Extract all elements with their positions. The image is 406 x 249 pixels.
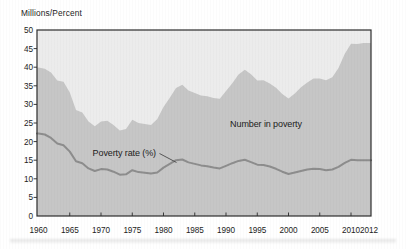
x-tick-label: 1990 — [217, 226, 235, 235]
y-tick-label: 20 — [24, 138, 33, 147]
y-tick-label: 40 — [24, 63, 33, 72]
y-tick-label: 45 — [24, 45, 33, 54]
x-tick-label: 2012 — [360, 226, 378, 235]
x-tick-label: 1985 — [186, 226, 204, 235]
x-tick-label: 1970 — [92, 226, 110, 235]
poverty-rate-label: Poverty rate (%) — [93, 148, 157, 158]
y-tick-label: 25 — [24, 119, 33, 128]
number-in-poverty-label: Number in poverty — [230, 119, 302, 129]
x-tick-label: 2005 — [311, 226, 329, 235]
x-tick-label: 2000 — [280, 226, 298, 235]
x-tick-label: 1965 — [61, 226, 79, 235]
y-tick-label: 15 — [24, 156, 33, 165]
y-tick-label: 5 — [29, 193, 34, 202]
x-tick-label: 1975 — [123, 226, 141, 235]
y-tick-label: 35 — [24, 82, 33, 91]
x-tick-label: 1995 — [248, 226, 266, 235]
y-tick-label: 30 — [24, 100, 33, 109]
y-tick-label: 50 — [24, 26, 33, 35]
poverty-chart-canvas: 0510152025303540455019601965197019751980… — [0, 0, 406, 249]
y-tick-label: 10 — [24, 175, 33, 184]
x-tick-label: 1980 — [155, 226, 173, 235]
x-tick-label: 2010 — [342, 226, 360, 235]
poverty-figure: Millions/Percent 05101520253035404550196… — [0, 0, 406, 249]
x-tick-label: 1960 — [30, 226, 48, 235]
y-tick-label: 0 — [29, 212, 34, 221]
